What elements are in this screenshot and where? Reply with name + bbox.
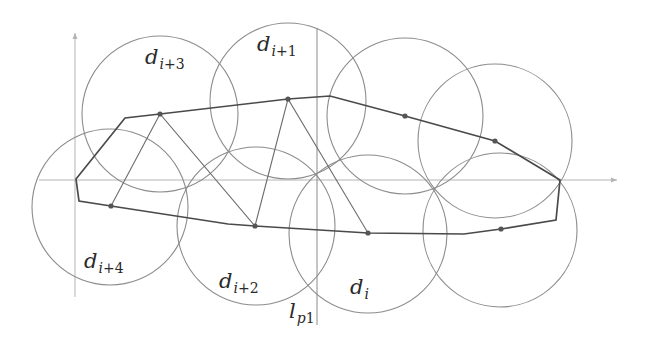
convex-hull-polygon — [76, 96, 560, 234]
label-subscript-op: +1 — [276, 43, 297, 59]
vertex-dot — [492, 138, 497, 143]
label-subscript-var: p — [297, 310, 306, 326]
label-subscript-var: i — [364, 286, 368, 302]
label-d-i-plus-1: di+1 — [257, 32, 297, 59]
label-d-i-plus-4: di+4 — [84, 249, 124, 276]
vertex-dot — [157, 111, 162, 116]
vertex-dot — [252, 223, 257, 228]
label-d-i-plus-3: di+3 — [145, 45, 185, 72]
label-main: d — [257, 32, 270, 56]
vertex-dot — [108, 203, 113, 208]
label-d-i-plus-2: di+2 — [219, 269, 259, 296]
hull-polygon — [76, 96, 560, 234]
label-l-p1: lp1 — [289, 299, 315, 326]
label-main: d — [84, 249, 97, 273]
diagram-canvas: di+3di+1di+4di+2dilp1 — [0, 0, 645, 337]
label-subscript-op: +2 — [238, 280, 259, 296]
label-d-i: di — [350, 275, 369, 302]
disk-cover-diagram: di+3di+1di+4di+2dilp1 — [0, 0, 645, 337]
vertex-dot — [498, 226, 503, 231]
vertex-dot — [402, 113, 407, 118]
label-main: d — [145, 45, 158, 69]
label-main: d — [219, 269, 232, 293]
vertex-dot — [285, 96, 290, 101]
label-subscript-op: +4 — [103, 260, 124, 276]
zigzag-polyline — [111, 99, 368, 233]
vertex-dot — [365, 230, 370, 235]
labels-group: di+3di+1di+4di+2dilp1 — [84, 32, 369, 326]
label-main: d — [350, 275, 363, 299]
label-subscript-op: 1 — [306, 310, 315, 326]
label-main: l — [289, 299, 296, 323]
zigzag-path — [111, 99, 368, 233]
label-subscript-op: +3 — [164, 56, 185, 72]
